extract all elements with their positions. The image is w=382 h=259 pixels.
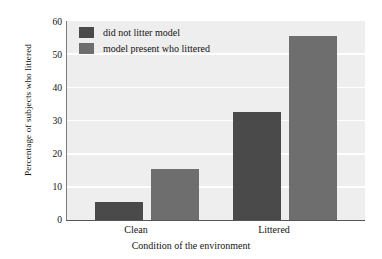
y-axis-title: Percentage of subjects who littered <box>23 10 33 210</box>
bar-littered-model-present-who-littered <box>289 36 337 220</box>
legend-label: model present who littered <box>103 43 210 54</box>
bar-clean-model-present-who-littered <box>151 169 199 220</box>
legend-item-did-not-litter-model: did not litter model <box>79 24 210 40</box>
y-axis-tick-labels: 60 50 40 30 20 10 0 <box>36 0 62 259</box>
legend-label: did not litter model <box>103 27 180 38</box>
y-tick-label: 40 <box>38 83 62 93</box>
legend-swatch-icon <box>79 27 94 38</box>
x-tick-label-littered: Littered <box>244 224 304 235</box>
x-axis-title: Condition of the environment <box>0 240 382 251</box>
plot-area: did not litter model model present who l… <box>66 21 365 221</box>
legend-swatch-icon <box>79 43 94 54</box>
y-tick-label: 30 <box>38 116 62 126</box>
x-tick-label-clean: Clean <box>106 224 166 235</box>
y-tick-label: 60 <box>38 17 62 27</box>
y-tick-label: 10 <box>38 182 62 192</box>
bar-chart: Percentage of subjects who littered 60 5… <box>0 0 382 259</box>
y-tick-label: 0 <box>38 215 62 225</box>
bar-littered-did-not-litter-model <box>233 112 281 220</box>
legend-item-model-present-who-littered: model present who littered <box>79 40 210 56</box>
legend: did not litter model model present who l… <box>79 24 210 56</box>
bar-clean-did-not-litter-model <box>95 202 143 220</box>
y-tick-label: 50 <box>38 50 62 60</box>
y-tick-label: 20 <box>38 149 62 159</box>
